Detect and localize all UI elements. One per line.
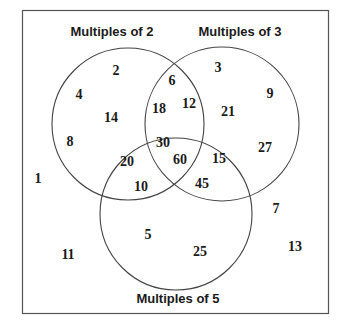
element-number: 18: [152, 101, 166, 116]
element-number: 11: [61, 247, 74, 262]
set-label: Multiples of 2: [70, 24, 153, 39]
set-label: Multiples of 3: [198, 24, 281, 39]
element-number: 7: [273, 201, 280, 216]
element-number: 45: [195, 176, 209, 191]
element-number: 14: [104, 110, 118, 125]
element-number: 60: [173, 152, 187, 167]
element-number: 3: [215, 60, 222, 75]
element-number: 8: [67, 134, 74, 149]
venn-diagram: Multiples of 2Multiples of 3Multiples of…: [0, 0, 347, 324]
element-number: 15: [212, 151, 226, 166]
element-number: 1: [35, 171, 42, 186]
element-number: 27: [258, 140, 272, 155]
element-number: 10: [134, 179, 148, 194]
element-number: 12: [182, 96, 196, 111]
element-number: 6: [169, 73, 176, 88]
element-number: 4: [76, 87, 83, 102]
element-number: 30: [156, 135, 170, 150]
element-number: 9: [267, 86, 274, 101]
element-number: 21: [221, 104, 235, 119]
venn-svg: Multiples of 2Multiples of 3Multiples of…: [0, 0, 347, 324]
element-number: 20: [120, 154, 134, 169]
element-number: 2: [113, 63, 120, 78]
element-number: 13: [288, 239, 302, 254]
set-label: Multiples of 5: [136, 291, 219, 306]
element-number: 25: [193, 244, 207, 259]
element-number: 5: [145, 227, 152, 242]
